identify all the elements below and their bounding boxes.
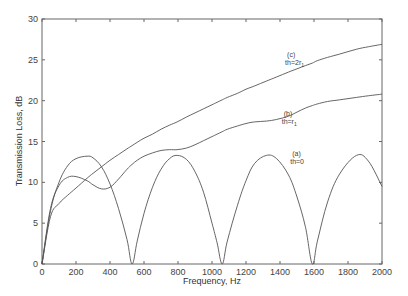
annotation-a: (a)th=0: [290, 150, 304, 165]
annotation-b: (b)th=r1: [282, 110, 297, 127]
annotation-label: (b): [284, 110, 293, 118]
plot-area: 0200400600800100012001400160018002000 05…: [28, 14, 392, 277]
transmission-loss-chart: 0200400600800100012001400160018002000 05…: [0, 0, 408, 296]
x-axis-title: Frequency, Hz: [183, 276, 241, 286]
y-tick-label: 15: [28, 137, 38, 147]
annotation-label: (c): [287, 51, 295, 59]
annotation-c: (c)th=2r1: [285, 51, 304, 68]
y-tick-label: 20: [28, 96, 38, 106]
series-lines: [42, 44, 382, 264]
annotation-condition: th=r1: [282, 118, 297, 127]
x-tick-label: 2000: [372, 267, 392, 277]
annotation-condition: th=2r1: [285, 59, 304, 68]
y-tick-label: 5: [33, 218, 38, 228]
x-tick-label: 200: [68, 267, 83, 277]
y-tick-label: 10: [28, 177, 38, 187]
y-tick-label: 25: [28, 55, 38, 65]
x-tick-label: 1600: [304, 267, 324, 277]
series-line-b: [42, 94, 382, 264]
annotation-condition: th=0: [290, 158, 304, 165]
y-axis-title: Transmission Loss, dB: [14, 96, 24, 187]
y-tick-label: 30: [28, 14, 38, 24]
x-tick-label: 600: [136, 267, 151, 277]
x-tick-label: 1800: [338, 267, 358, 277]
axes-box: [42, 19, 382, 264]
series-line-c: [42, 44, 382, 264]
x-tick-label: 1400: [270, 267, 290, 277]
y-tick-label: 0: [33, 259, 38, 269]
y-axis-ticks: 051015202530: [28, 14, 382, 269]
x-tick-label: 400: [102, 267, 117, 277]
x-tick-label: 0: [39, 267, 44, 277]
annotation-label: (a): [292, 150, 301, 158]
series-line-a: [42, 154, 382, 264]
